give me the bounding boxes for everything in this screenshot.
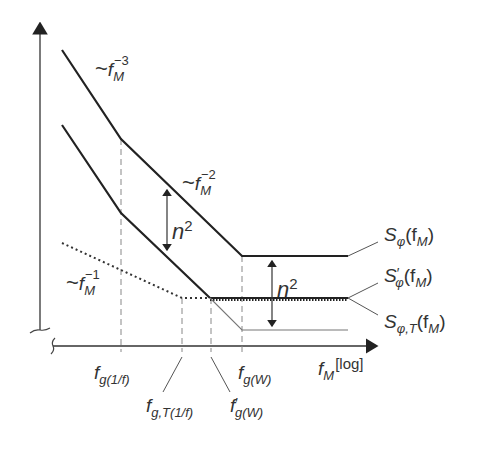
x-axis-label: fM[log] [318, 356, 363, 382]
slope-label-minus2: ~fM−2 [182, 172, 226, 197]
n2-label-left: n2 [172, 218, 193, 243]
n2-label-right: n2 [277, 276, 298, 301]
marker-label-fg-T-1f: fg,T(1/f) [146, 396, 193, 419]
curve-label-S-phi-T: Sφ,T(fM) [384, 312, 446, 335]
curve-label-S-phi: Sφ(fM) [384, 225, 434, 248]
marker-label-fg-W: fg(W) [238, 363, 271, 386]
y-axis [30, 28, 50, 333]
marker-leader-lines [163, 357, 230, 392]
marker-label-fg-1f: fg(1/f) [94, 363, 130, 386]
slope-label-minus1: ~fM−1 [66, 272, 110, 297]
curve-leader-lines [348, 242, 378, 315]
slope-label-minus3: ~fM−3 [95, 58, 139, 83]
curve-S-phi-T [210, 298, 348, 330]
marker-label-fg-W-prime: f′g(W) [230, 396, 263, 419]
curve-label-S-phi-prime: S′φ(fM) [384, 266, 433, 289]
